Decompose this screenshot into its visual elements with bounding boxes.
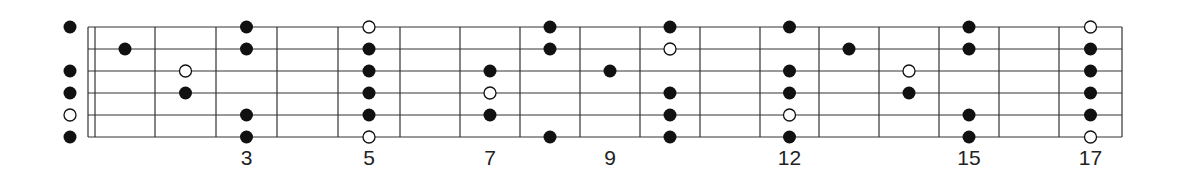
scale-note-dot bbox=[544, 131, 557, 144]
scale-note-dot bbox=[179, 87, 192, 100]
fret-label-9: 9 bbox=[604, 146, 616, 170]
root-note-dot bbox=[784, 109, 796, 121]
fret-label-5: 5 bbox=[363, 146, 375, 170]
scale-note-dot bbox=[664, 131, 677, 144]
root-note-dot bbox=[1085, 131, 1097, 143]
scale-note-dot bbox=[783, 87, 796, 100]
scale-note-dot bbox=[604, 65, 617, 78]
root-note-dot bbox=[1085, 21, 1097, 33]
scale-note-dot bbox=[1084, 65, 1097, 78]
fret-label-12: 12 bbox=[778, 146, 801, 170]
root-note-dot bbox=[64, 109, 76, 121]
scale-note-dot bbox=[119, 43, 132, 56]
scale-note-dot bbox=[363, 87, 376, 100]
scale-note-dot bbox=[1084, 87, 1097, 100]
fret-label-7: 7 bbox=[484, 146, 496, 170]
root-note-dot bbox=[363, 131, 375, 143]
scale-note-dot bbox=[783, 21, 796, 34]
scale-note-dot bbox=[484, 65, 497, 78]
scale-note-dot bbox=[484, 109, 497, 122]
scale-note-dot bbox=[240, 21, 253, 34]
scale-note-dot bbox=[544, 43, 557, 56]
scale-note-dot bbox=[843, 43, 856, 56]
root-note-dot bbox=[903, 65, 915, 77]
root-note-dot bbox=[363, 21, 375, 33]
scale-note-dot bbox=[363, 65, 376, 78]
scale-note-dot bbox=[783, 131, 796, 144]
scale-note-dot bbox=[64, 21, 77, 34]
fretboard-diagram bbox=[0, 0, 1178, 177]
root-note-dot bbox=[180, 65, 192, 77]
scale-note-dot bbox=[544, 21, 557, 34]
scale-note-dot bbox=[240, 109, 253, 122]
fret-label-15: 15 bbox=[957, 146, 980, 170]
scale-note-dot bbox=[963, 109, 976, 122]
scale-note-dot bbox=[64, 65, 77, 78]
scale-note-dot bbox=[363, 109, 376, 122]
root-note-dot bbox=[484, 87, 496, 99]
scale-note-dot bbox=[363, 43, 376, 56]
scale-note-dot bbox=[664, 21, 677, 34]
root-note-dot bbox=[664, 43, 676, 55]
scale-note-dot bbox=[64, 87, 77, 100]
scale-note-dot bbox=[903, 87, 916, 100]
scale-note-dot bbox=[240, 43, 253, 56]
scale-note-dot bbox=[963, 43, 976, 56]
fret-label-17: 17 bbox=[1079, 146, 1102, 170]
scale-note-dot bbox=[64, 131, 77, 144]
scale-note-dot bbox=[664, 87, 677, 100]
scale-note-dot bbox=[1084, 43, 1097, 56]
scale-note-dot bbox=[664, 109, 677, 122]
scale-note-dot bbox=[240, 131, 253, 144]
scale-note-dot bbox=[1084, 109, 1097, 122]
fret-label-3: 3 bbox=[241, 146, 253, 170]
scale-note-dot bbox=[783, 65, 796, 78]
scale-note-dot bbox=[963, 21, 976, 34]
scale-note-dot bbox=[963, 131, 976, 144]
